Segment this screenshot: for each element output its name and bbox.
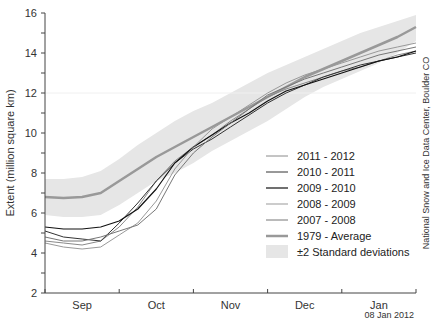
x-tick-label: Nov	[221, 299, 241, 311]
sea-ice-extent-chart: 246810121416SepOctNovDecJan Extent (mill…	[0, 0, 434, 326]
legend-item-label: 2008 - 2009	[297, 198, 356, 210]
credit-text: National Snow and Ice Data Center, Bould…	[421, 57, 431, 250]
y-tick-label: 8	[31, 167, 37, 179]
y-tick-label: 14	[25, 47, 37, 59]
legend-item-label: 2011 - 2012	[297, 150, 355, 162]
series-line-2011-2012	[45, 51, 416, 245]
legend-item-label: 2010 - 2011	[297, 166, 355, 178]
y-tick-label: 10	[25, 127, 37, 139]
legend-swatch-band	[266, 245, 288, 258]
date-stamp: 08 Jan 2012	[364, 310, 414, 320]
y-tick-label: 6	[31, 207, 37, 219]
x-tick-label: Dec	[295, 299, 315, 311]
y-axis-label: Extent (million square km)	[4, 89, 16, 216]
series-line-2008-2009	[45, 43, 416, 249]
legend-item-label: ±2 Standard deviations	[297, 246, 410, 258]
x-tick-label: Sep	[72, 299, 92, 311]
y-tick-label: 16	[25, 7, 37, 19]
y-tick-label: 12	[25, 87, 37, 99]
y-tick-label: 2	[31, 287, 37, 299]
x-tick-label: Oct	[148, 299, 165, 311]
y-tick-label: 4	[31, 247, 37, 259]
legend-item-label: 1979 - Average	[297, 230, 371, 242]
legend: 2011 - 20122010 - 20112009 - 20102008 - …	[266, 150, 410, 258]
legend-item-label: 2009 - 2010	[297, 182, 356, 194]
legend-item-label: 2007 - 2008	[297, 214, 356, 226]
